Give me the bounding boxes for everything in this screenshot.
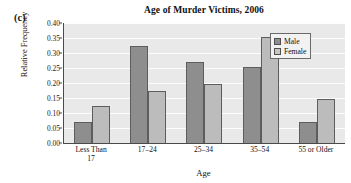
y-tick-mark [59,23,62,24]
x-axis-label: Age [63,168,344,178]
x-tick-label: 55 or Older [288,145,344,154]
y-tick-mark [59,113,62,114]
y-tick-label: 0.25 [34,64,60,73]
y-tick-label: 0.05 [34,124,60,133]
legend-item-female: Female [274,46,306,56]
y-tick-label: 0.40 [34,19,60,28]
x-tick-label: 17–24 [119,145,175,154]
y-tick-mark [59,83,62,84]
y-tick-mark [59,68,62,69]
bar-female [92,106,110,143]
bar-group [64,23,120,143]
y-tick-label: 0.20 [34,79,60,88]
y-tick-label: 0.30 [34,49,60,58]
bar-female [204,84,222,143]
y-tick-label: 0.00 [34,139,60,148]
x-tick-label: 35–54 [232,145,288,154]
bar-female [148,91,166,144]
legend-label-male: Male [284,37,300,46]
legend-label-female: Female [284,47,306,56]
y-tick-label: 0.10 [34,109,60,118]
y-tick-label: 0.35 [34,34,60,43]
y-axis-ticks: 0.000.050.100.150.200.250.300.350.40 [30,23,60,143]
y-axis-label: Relative Frequency [20,0,29,95]
male-swatch-icon [274,38,281,45]
bar-male [243,67,261,144]
y-tick-label: 0.15 [34,94,60,103]
bar-male [186,62,204,143]
y-tick-mark [59,128,62,129]
y-tick-mark [59,143,62,144]
bar-male [74,122,92,143]
y-tick-mark [59,38,62,39]
x-tick-label: 25–34 [175,145,231,154]
female-swatch-icon [274,48,281,55]
x-tick-label: Less Than17 [63,145,119,163]
chart-title: Age of Murder Victims, 2006 [63,5,345,15]
bar-male [130,46,148,143]
bar-female [317,99,335,143]
legend: Male Female [270,33,311,59]
y-tick-mark [59,98,62,99]
bar-group [176,23,232,143]
y-tick-mark [59,53,62,54]
bar-group [120,23,176,143]
figure-container: (c) Age of Murder Victims, 2006 Relative… [0,0,351,183]
bar-male [299,122,317,143]
legend-item-male: Male [274,36,306,46]
